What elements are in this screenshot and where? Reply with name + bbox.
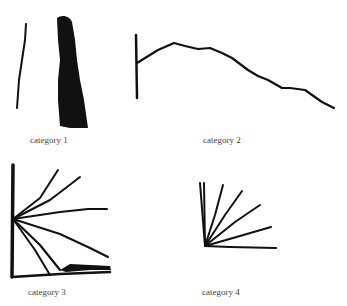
caption-category-1: category 1 xyxy=(30,135,68,145)
category-1-drawing xyxy=(17,16,88,128)
category-2-drawing xyxy=(136,35,334,108)
drawings-canvas xyxy=(0,0,347,306)
category-3-drawing xyxy=(12,165,111,277)
caption-category-4: category 4 xyxy=(202,287,240,297)
category-4-drawing xyxy=(200,183,276,248)
caption-category-2: category 2 xyxy=(203,135,241,145)
caption-category-3: category 3 xyxy=(28,287,66,297)
